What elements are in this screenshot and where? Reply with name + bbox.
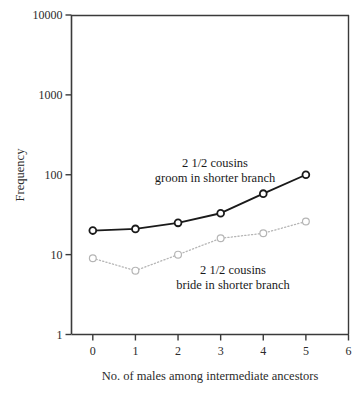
x-tick-label: 3 [218, 344, 224, 358]
annotation-groom-line1: 2 1/2 cousins [182, 156, 248, 170]
x-tick-label: 4 [260, 344, 266, 358]
x-tick-label: 0 [90, 344, 96, 358]
annotation-groom-line2: groom in shorter branch [155, 171, 276, 185]
x-axis-title: No. of males among intermediate ancestor… [102, 369, 319, 383]
frequency-log-line-chart: 100001000100101 0123456 Frequency No. of… [0, 0, 362, 396]
chart-background [0, 0, 362, 396]
x-tick-label: 1 [132, 344, 138, 358]
y-tick-label: 100 [45, 168, 63, 182]
y-tick-label: 1 [57, 328, 63, 342]
annotation-bride-line2: bride in shorter branch [176, 278, 290, 292]
y-axis-title: Frequency [13, 148, 27, 202]
annotation-bride-line1: 2 1/2 cousins [200, 263, 266, 277]
chart-figure: 100001000100101 0123456 Frequency No. of… [0, 0, 362, 396]
y-tick-label: 1000 [39, 88, 63, 102]
x-tick-label: 2 [175, 344, 181, 358]
y-tick-label: 10 [51, 248, 63, 262]
x-tick-label: 6 [346, 344, 352, 358]
y-tick-label: 10000 [33, 8, 63, 22]
x-tick-label: 5 [303, 344, 309, 358]
